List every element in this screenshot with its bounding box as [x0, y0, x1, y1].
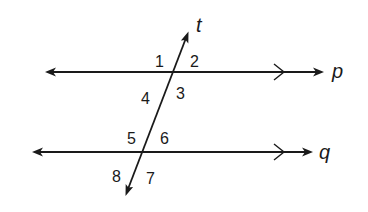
- angle-label-3: 3: [176, 85, 185, 102]
- angle-label-4: 4: [141, 90, 150, 107]
- line-label-t: t: [196, 14, 203, 36]
- angle-label-1: 1: [155, 53, 164, 70]
- angle-label-6: 6: [160, 130, 169, 147]
- line-p: [45, 64, 324, 80]
- line-label-p: p: [331, 60, 343, 82]
- line-q: [32, 144, 313, 160]
- parallel-lines-transversal-diagram: t p q 1 2 3 4 5 6 7 8: [0, 0, 368, 212]
- angle-label-2: 2: [190, 53, 199, 70]
- line-label-q: q: [319, 141, 330, 163]
- angle-label-8: 8: [112, 168, 121, 185]
- angle-label-5: 5: [127, 130, 136, 147]
- angle-label-7: 7: [146, 170, 155, 187]
